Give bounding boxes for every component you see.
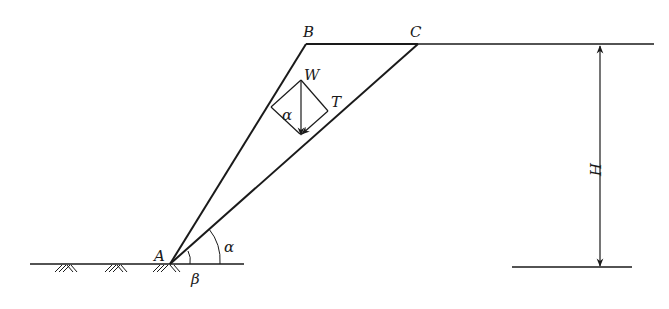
dimension-label-H: H bbox=[586, 162, 604, 177]
point-label-A: A bbox=[152, 247, 165, 265]
angle-label-alpha: α bbox=[224, 238, 234, 256]
angle-label-alpha-force: α bbox=[282, 106, 292, 124]
point-label-B: B bbox=[302, 23, 314, 41]
ground-hatch-icon bbox=[55, 265, 180, 272]
angle-label-beta: β bbox=[190, 270, 200, 288]
slope-diagram: B C W T α A α β H bbox=[0, 0, 669, 309]
slip-plane-AC bbox=[170, 44, 418, 264]
force-label-T: T bbox=[331, 93, 342, 111]
force-label-W: W bbox=[304, 66, 321, 84]
point-label-C: C bbox=[410, 23, 422, 41]
slope-face-AB bbox=[170, 44, 306, 264]
angle-arc-beta bbox=[188, 251, 190, 264]
angle-arc-alpha bbox=[209, 229, 220, 264]
